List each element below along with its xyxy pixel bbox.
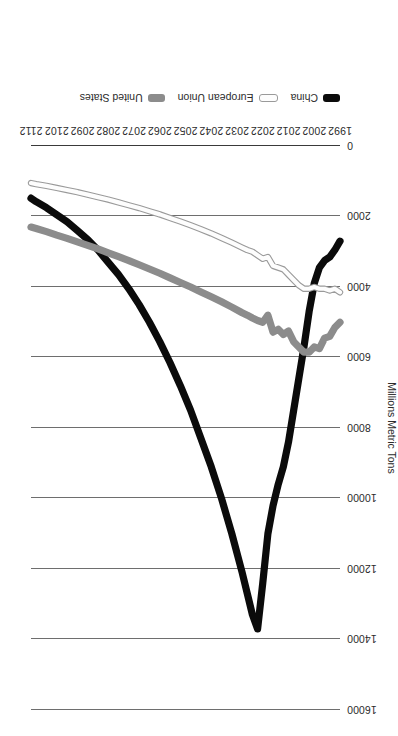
x-axis-tick-label: 2062 xyxy=(148,125,172,137)
chart-canvas: Millions Metric Tons 0200040006000800010… xyxy=(0,0,398,736)
x-axis-tick-label: 2022 xyxy=(251,125,275,137)
x-axis-tick-label: 2102 xyxy=(45,125,69,137)
chart-legend: China European Union United States xyxy=(31,92,340,104)
rotated-chart-container: Millions Metric Tons 0200040006000800010… xyxy=(0,0,398,736)
legend-label-united-states: United States xyxy=(80,92,143,104)
y-axis-tick-label: 14000 xyxy=(347,634,377,646)
y-axis-tick-label: 6000 xyxy=(347,352,371,364)
x-axis-tick-label: 2052 xyxy=(174,125,198,137)
x-axis-tick-label: 2042 xyxy=(199,125,223,137)
x-axis-tick-label: 2112 xyxy=(20,125,43,137)
x-axis-tick-label: 2012 xyxy=(277,125,301,137)
plot-area: 0200040006000800010000120001400016000 19… xyxy=(31,146,340,710)
y-axis-title: Millions Metric Tons xyxy=(386,382,398,473)
series-layer xyxy=(31,146,340,710)
x-axis-tick-label: 2072 xyxy=(122,125,146,137)
x-axis-tick-label: 2092 xyxy=(71,125,95,137)
legend-item-united-states[interactable]: United States xyxy=(80,92,165,104)
y-axis-tick-label: 0 xyxy=(347,140,353,152)
united-states-line-swatch xyxy=(148,94,165,102)
x-axis-tick-label: 1992 xyxy=(328,125,352,137)
y-axis-tick-label: 2000 xyxy=(347,211,371,223)
china-line-swatch xyxy=(323,94,340,102)
y-axis-tick-label: 4000 xyxy=(347,281,371,293)
european-union-line-swatch xyxy=(259,94,278,102)
x-axis-tick-label: 2032 xyxy=(225,125,249,137)
legend-item-european-union[interactable]: European Union xyxy=(178,92,278,104)
x-axis-tick-label: 2082 xyxy=(96,125,120,137)
legend-item-china[interactable]: China xyxy=(291,92,340,104)
y-axis-tick-label: 10000 xyxy=(347,493,377,505)
series-line-united-states[interactable] xyxy=(31,227,340,352)
chart-screenshot: Millions Metric Tons 0200040006000800010… xyxy=(0,0,398,736)
legend-label-european-union: European Union xyxy=(178,92,254,104)
x-axis-tick-label: 2002 xyxy=(302,125,326,137)
y-axis-tick-label: 16000 xyxy=(347,704,377,716)
series-line-china[interactable] xyxy=(31,198,340,629)
y-axis-tick-label: 8000 xyxy=(347,422,371,434)
series-line-european-union-outline xyxy=(31,183,340,292)
y-axis-tick-label: 12000 xyxy=(347,563,377,575)
legend-label-china: China xyxy=(291,92,318,104)
